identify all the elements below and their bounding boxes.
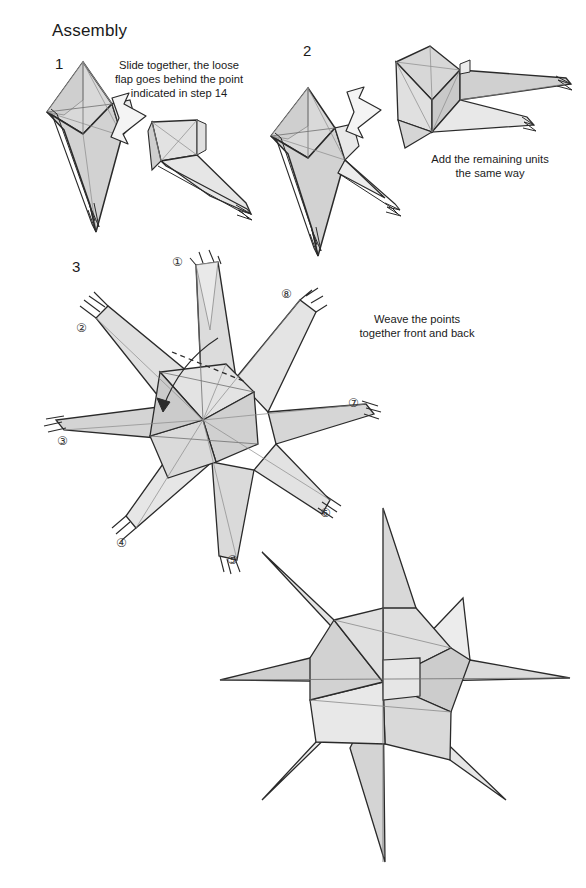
step3-figure: [44, 250, 381, 574]
step-3-note: Weave the points together front and back: [352, 312, 482, 340]
step-3-number: 3: [72, 258, 80, 277]
step-2-number: 2: [303, 42, 311, 61]
step2-figure: [271, 46, 572, 256]
step-1-note: Slide together, the loose flap goes behi…: [104, 58, 254, 100]
step1-unit-right: [148, 120, 252, 220]
unit-label-2: ②: [76, 321, 87, 335]
unit-label-1: ①: [172, 255, 183, 269]
unit-label-5: ⑤: [227, 553, 238, 567]
unit-label-6: ⑥: [320, 506, 331, 520]
unit-label-7: ⑦: [348, 396, 359, 410]
page-title: Assembly: [52, 20, 127, 41]
diagram-canvas: [0, 0, 586, 888]
unit-label-3: ③: [57, 434, 68, 448]
unit-label-8: ⑧: [281, 287, 292, 301]
unit-label-4: ④: [116, 536, 127, 550]
step2-unit-mid: [396, 46, 572, 148]
final-star-figure: [220, 508, 570, 862]
push-arrow-step2: [346, 87, 381, 138]
step2-unit-left: [271, 88, 401, 256]
diagram-page: Assembly 1 Slide together, the loose fla…: [0, 0, 586, 888]
step-2-note: Add the remaining units the same way: [420, 152, 560, 180]
step-1-number: 1: [55, 55, 63, 74]
